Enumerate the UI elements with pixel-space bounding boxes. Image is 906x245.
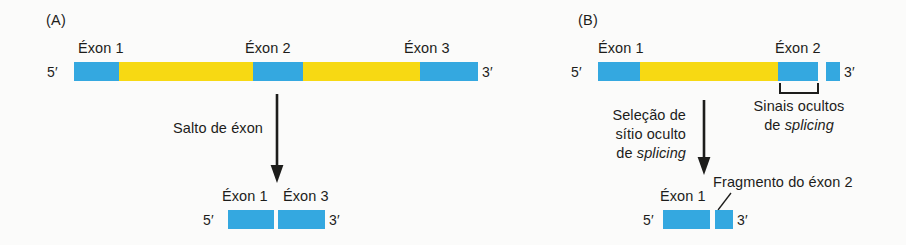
exon-segment-1 [598, 62, 640, 81]
splicing-figure: (A) Éxon 1 Éxon 2 Éxon 3 5′ 3′ Salto de … [0, 0, 906, 245]
panel-a-process-label: Salto de éxon [163, 119, 263, 138]
exon-segment-1 [74, 62, 119, 81]
panel-a-exon2-label: Éxon 2 [245, 40, 291, 56]
panel-a-exon1-label: Éxon 1 [78, 40, 124, 56]
product-exon-1 [663, 210, 710, 229]
product-exon-3 [278, 210, 325, 229]
intron-segment-2 [303, 62, 420, 81]
panel-b-product-three-prime: 3′ [737, 212, 748, 228]
panel-a-product-three-prime: 3′ [329, 212, 340, 228]
panel-b-process-label-italic: splicing [637, 145, 686, 161]
cryptic-signals-bracket [778, 83, 820, 96]
panel-a-product-exon3-label: Éxon 3 [283, 188, 329, 204]
panel-b-product-five-prime: 5′ [643, 212, 654, 228]
panel-a: (A) Éxon 1 Éxon 2 Éxon 3 5′ 3′ Salto de … [0, 0, 500, 245]
panel-b-process-label-plain: de [616, 145, 636, 161]
panel-b-exon2-label: Éxon 2 [775, 40, 821, 56]
exon-segment-2-fragment [778, 62, 818, 81]
panel-a-product-exon1-label: Éxon 1 [222, 188, 268, 204]
intron-segment-1 [119, 62, 253, 81]
exon-segment-3 [420, 62, 478, 81]
panel-a-exon3-label: Éxon 3 [404, 40, 450, 56]
panel-b-process-arrow [695, 100, 713, 176]
panel-b: (B) Éxon 1 Éxon 2 5′ 3′ Sinais ocultos d… [500, 0, 906, 245]
panel-a-label: (A) [46, 12, 66, 28]
panel-b-exon1-label: Éxon 1 [598, 40, 644, 56]
panel-a-three-prime: 3′ [482, 64, 493, 80]
panel-b-process-label-line3: de splicing [526, 144, 686, 163]
exon-segment-2-remainder [826, 62, 840, 81]
product-exon-2-fragment [715, 210, 733, 229]
product-exon-1 [228, 210, 274, 229]
panel-b-process-label-line1: Seleção de [526, 106, 686, 125]
cryptic-signals-label-line2: de splicing [718, 116, 880, 135]
panel-b-label: (B) [578, 12, 598, 28]
panel-a-process-arrow [268, 94, 286, 184]
cryptic-signals-label-line1: Sinais ocultos [718, 97, 880, 116]
fragment-label: Fragmento do éxon 2 [713, 174, 853, 190]
fragment-leader-line [715, 192, 735, 212]
panel-b-product-exon1-label: Éxon 1 [660, 188, 706, 204]
panel-a-pre-mrna-bar [74, 62, 478, 81]
cryptic-signals-label-plain: de [764, 117, 784, 133]
panel-b-three-prime: 3′ [844, 64, 855, 80]
intron-segment-1 [640, 62, 778, 81]
panel-a-product-five-prime: 5′ [203, 212, 214, 228]
panel-b-mrna-bar [663, 210, 733, 229]
panel-a-five-prime: 5′ [47, 64, 58, 80]
panel-a-mrna-bar [228, 210, 325, 229]
exon-segment-2 [253, 62, 303, 81]
cryptic-signals-label-italic: splicing [785, 117, 834, 133]
panel-b-process-label-line2: sítio oculto [526, 125, 686, 144]
panel-b-five-prime: 5′ [571, 64, 582, 80]
panel-b-pre-mrna-bar [598, 62, 840, 81]
